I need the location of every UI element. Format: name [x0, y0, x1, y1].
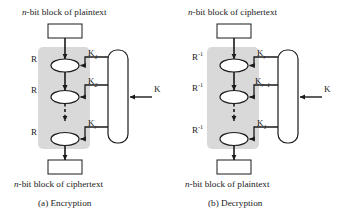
decryption-round-r	[220, 133, 248, 146]
decryption-top-label-rest: -bit block of ciphertext	[193, 7, 277, 17]
decryption-subkey-label-1: K1	[257, 119, 267, 128]
encryption-round-2	[51, 91, 79, 104]
encryption-subkey-label-2: K2	[88, 77, 98, 86]
encryption-key-schedule-block	[108, 50, 128, 143]
decryption-bottom-label-rest: -bit block of plaintext	[190, 179, 270, 189]
decryption-bottom-label: n-bit block of plaintext	[185, 180, 269, 189]
decryption-round-label-2: R-1	[192, 84, 203, 93]
encryption-plaintext-block	[48, 24, 82, 38]
encryption-round-r	[51, 133, 79, 146]
decryption-round-label-1: R-1	[192, 53, 203, 62]
encryption-bottom-label-rest: -bit block of ciphertext	[19, 179, 103, 189]
encryption-subkey-label-r: Kr	[88, 119, 97, 128]
decryption-subcaption: (b) Decryption	[208, 199, 262, 208]
block-cipher-figure: n-bit block of plaintext	[0, 0, 345, 216]
encryption-subkey-label-1: K1	[88, 49, 98, 58]
encryption-round-1	[51, 59, 79, 72]
decryption-round-label-r: R-1	[192, 126, 203, 135]
encryption-round-label-r: R	[31, 128, 37, 137]
decryption-round-1	[220, 59, 248, 72]
decryption-master-key-label: K	[324, 85, 331, 94]
encryption-bottom-label: n-bit block of ciphertext	[14, 180, 103, 189]
decryption-plaintext-block	[217, 160, 251, 174]
decryption-subkey-label-r: Kr	[257, 49, 266, 58]
decryption-round-2	[220, 91, 248, 104]
decryption-subkey-label-r-1: Kr–1	[255, 77, 270, 86]
decryption-ciphertext-block	[217, 24, 251, 38]
encryption-round-label-1: R	[31, 55, 37, 64]
encryption-round-label-2: R	[31, 86, 37, 95]
encryption-ciphertext-block	[48, 160, 82, 174]
decryption-key-schedule-block	[278, 50, 298, 143]
encryption-master-key-label: K	[154, 85, 161, 94]
encryption-subcaption: (a) Encryption	[38, 199, 91, 208]
decryption-top-label: n-bit block of ciphertext	[188, 8, 277, 17]
